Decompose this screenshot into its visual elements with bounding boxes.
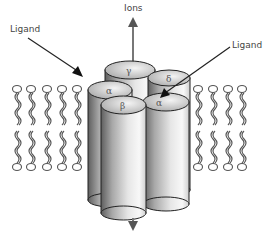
subunit-alpha-right-label: α — [156, 98, 162, 108]
ligand-arrow-left — [28, 38, 83, 77]
arrowhead-icon — [72, 66, 83, 77]
subunit-alpha-left-label: α — [106, 86, 112, 96]
lipid-bottom-left — [13, 131, 82, 171]
subunit-beta-label: β — [120, 101, 125, 111]
ions-label: Ions — [124, 4, 143, 13]
lipid-bilayer-left — [13, 86, 82, 171]
diagram-canvas: γ δ α α β — [0, 0, 271, 235]
arrow-up-icon — [128, 17, 138, 27]
ligand-label-right: Ligand — [232, 41, 262, 50]
ligand-label-left: Ligand — [10, 25, 40, 34]
ion-channel-diagram: γ δ α α β — [0, 0, 271, 235]
subunit-gamma-label: γ — [126, 66, 131, 76]
subunit-delta-label: δ — [166, 74, 171, 84]
subunit-alpha-right: α — [143, 93, 189, 211]
arrow-down-icon — [128, 221, 138, 231]
subunit-beta: β — [101, 96, 146, 220]
lipid-top-left — [13, 86, 82, 126]
